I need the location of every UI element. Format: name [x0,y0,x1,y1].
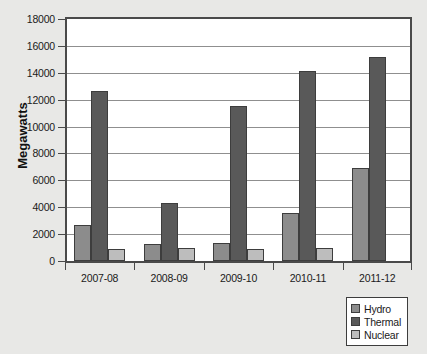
y-axis-tick-label: 10000 [27,121,55,133]
legend-item[interactable]: Hydro [351,302,401,315]
bar [91,91,108,261]
legend-item[interactable]: Thermal [351,315,401,328]
y-axis-tick [58,73,65,74]
legend-label: Thermal [364,316,401,328]
x-axis-tick-label: 2008-09 [151,272,188,284]
legend-label: Nuclear [364,329,399,341]
bar [282,213,299,261]
y-axis-tick [58,153,65,154]
y-axis-tick-label: 6000 [32,174,55,186]
bar-chart: Megawatts 020004000600080001000012000140… [0,0,427,354]
chart-legend: HydroThermalNuclear [346,297,408,346]
y-axis-tick [58,261,65,262]
bars-layer [65,17,412,263]
x-axis-tick [65,263,66,270]
x-axis-tick-label: 2011-12 [359,272,395,284]
legend-swatch-icon [351,330,360,339]
x-axis-tick [343,263,344,270]
legend-swatch-icon [351,317,360,326]
bar [369,57,386,261]
y-axis-tick [58,207,65,208]
legend-item[interactable]: Nuclear [351,328,401,341]
y-axis-tick-label: 18000 [27,13,55,25]
y-axis-tick-label: 0 [49,255,55,267]
bar [108,249,125,261]
x-axis-tick-label: 2007-08 [81,272,118,284]
bar [213,243,230,261]
legend-label: Hydro [364,303,391,315]
bar [74,225,91,261]
y-axis-tick-label: 12000 [27,94,55,106]
bar [178,248,195,261]
legend-swatch-icon [351,304,360,313]
x-axis-tick-label: 2009-10 [220,272,257,284]
bar [247,249,264,261]
x-axis-tick-labels: 2007-082008-092009-102010-112011-12 [65,272,412,288]
y-axis-tick [58,234,65,235]
y-axis-tick-label: 4000 [32,201,55,213]
y-axis-tick-label: 2000 [32,228,55,240]
bar [144,244,161,261]
y-axis-tick [58,100,65,101]
x-axis-tick [273,263,274,270]
y-axis-tick-label: 16000 [27,40,55,52]
x-axis-tick [204,263,205,270]
y-axis-tick [58,46,65,47]
x-axis-ticks [65,263,412,270]
x-axis-tick-label: 2010-11 [290,272,326,284]
bar [352,168,369,261]
x-axis-tick [134,263,135,270]
y-axis-tick-label: 14000 [27,67,55,79]
y-axis-tick [58,19,65,20]
bar [230,106,247,261]
y-axis-tick [58,127,65,128]
x-axis-tick [411,263,412,270]
y-axis-tick-labels: 0200040006000800010000120001400016000180… [0,17,65,263]
bar [161,203,178,261]
bar [316,248,333,261]
y-axis-tick-label: 8000 [32,147,55,159]
y-axis-tick [58,180,65,181]
bar [299,71,316,261]
